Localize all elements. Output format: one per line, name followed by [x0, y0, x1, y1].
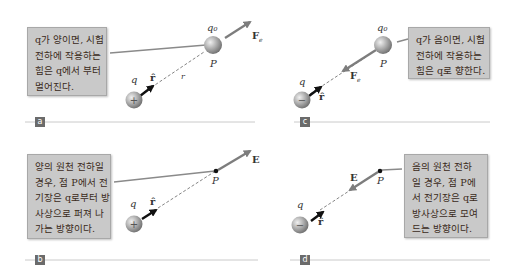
callout-leader-c	[397, 39, 408, 42]
callout-d-line: 드는 방향이다.	[412, 221, 482, 237]
field-arrow-b	[218, 151, 250, 170]
label-q0-a: q₀	[207, 22, 217, 33]
callout-b-line: 양의 원천 전하일	[35, 159, 105, 175]
point-p-b	[214, 169, 219, 174]
callout-c-line: 전하에 작용하는	[416, 48, 484, 64]
callout-b-line: 경우, 점 P에서 전	[35, 175, 105, 191]
callout-d-line: 서 전기장은 q로	[412, 190, 482, 206]
label-q-d: q	[297, 199, 303, 210]
label-field-b: E	[252, 154, 260, 165]
callout-leader-d	[382, 169, 402, 170]
svg-text:−: −	[296, 220, 304, 231]
force-subscript: e	[357, 76, 361, 83]
label-force-a: Fe	[252, 30, 263, 43]
force-arrow-a	[225, 22, 250, 38]
callout-b: 양의 원천 전하일 경우, 점 P에서 전 기장은 q로부터 방 사상으로 퍼져…	[27, 154, 111, 239]
label-q-c: q	[299, 76, 305, 87]
test-charge-c	[374, 36, 392, 54]
callout-d-line: 일 경우, 점 P에	[412, 175, 482, 191]
label-field-d: E	[350, 172, 358, 183]
label-rhat-d: r̂	[318, 216, 323, 227]
label-rhat-c: r̂	[319, 91, 324, 102]
force-subscript: e	[259, 36, 263, 43]
callout-a-line: 멀어진다.	[35, 79, 101, 95]
callout-d-line: 음의 원천 전하	[412, 159, 482, 175]
panel-tag-d: d	[300, 255, 310, 265]
label-q0-c: q₀	[377, 22, 387, 33]
point-p-d	[378, 169, 383, 174]
panel-tag-a: a	[35, 117, 45, 127]
callout-a-line: q가 양이면, 시험	[35, 32, 101, 48]
label-p-d: P	[377, 175, 384, 186]
callout-leader-a	[110, 45, 206, 53]
callout-c: q가 음이면, 시험 전하에 작용하는 힘은 q로 향한다.	[408, 27, 490, 79]
label-q-b: q	[130, 198, 136, 209]
callout-d-line: 방사상으로 모여	[412, 206, 482, 222]
callout-leader-b	[114, 171, 215, 182]
callout-c-line: q가 음이면, 시험	[416, 32, 484, 48]
label-q-a: q	[131, 74, 137, 85]
callout-b-line: 가는 방향이다.	[35, 221, 105, 237]
callout-d: 음의 원천 전하 일 경우, 점 P에 서 전기장은 q로 방사상으로 모여 드…	[404, 154, 488, 238]
callout-a-line: 전하에 작용하는	[35, 48, 101, 64]
test-charge-a	[204, 36, 222, 54]
callout-b-line: 사상으로 퍼져 나	[35, 206, 105, 222]
label-force-c: Fe	[350, 70, 361, 83]
distance-line-b	[158, 172, 214, 208]
svg-text:+: +	[130, 95, 138, 106]
panel-tag-b: b	[35, 255, 45, 265]
unit-vector-arrow-a	[140, 86, 153, 96]
label-r-a: r	[181, 72, 185, 81]
svg-text:+: +	[130, 219, 138, 230]
label-p-b: P	[212, 175, 219, 186]
callout-c-line: 힘은 q로 향한다.	[416, 63, 484, 79]
label-rhat-a: r̂	[150, 72, 155, 83]
label-p-a: P	[210, 58, 217, 69]
callout-a: q가 양이면, 시험 전하에 작용하는 힘은 q에서 부터 멀어진다.	[27, 27, 107, 96]
panel-tag-c: c	[300, 117, 310, 127]
force-arrow-c	[343, 50, 376, 71]
label-rhat-b: r̂	[150, 196, 155, 207]
svg-text:−: −	[298, 95, 306, 106]
callout-a-line: 힘은 q에서 부터	[35, 63, 101, 79]
callout-b-line: 기장은 q로부터 방	[35, 190, 105, 206]
unit-vector-arrow-b	[142, 210, 156, 219]
label-p-c: P	[380, 58, 387, 69]
